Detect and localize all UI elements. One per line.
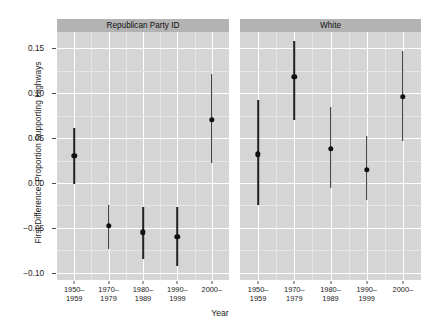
x-tick-mark (177, 281, 178, 284)
gridline-horizontal-minor (240, 71, 421, 72)
y-tick-mark (52, 183, 56, 184)
gridline-horizontal-minor (240, 250, 421, 251)
x-tick-label: 1980–1989 (133, 285, 154, 304)
x-tick-mark (108, 281, 109, 284)
x-tick-label: 1980–1989 (320, 285, 341, 304)
y-tick-label: 0.10 (6, 89, 44, 98)
panel-strip-left: Republican Party ID (57, 19, 229, 32)
x-tick-mark (366, 281, 367, 284)
gridline-vertical-minor (349, 32, 350, 280)
gridline-vertical-minor (160, 32, 161, 280)
x-tick-mark (74, 281, 75, 284)
gridline-horizontal (240, 93, 421, 94)
panel-title-right: White (240, 19, 421, 32)
x-tick-mark (402, 281, 403, 284)
data-point (292, 74, 297, 79)
y-tick-label: 0.05 (6, 134, 44, 143)
x-tick-mark (258, 281, 259, 284)
data-point (175, 234, 180, 239)
x-tick-label: 1970–1979 (284, 285, 305, 304)
gridline-vertical-minor (91, 32, 92, 280)
panel-white: White (240, 19, 421, 280)
gridline-horizontal (240, 228, 421, 229)
data-point (255, 151, 260, 156)
y-tick-label: −0.10 (6, 268, 44, 277)
y-tick-mark (52, 93, 56, 94)
gridline-horizontal (57, 273, 229, 274)
y-tick-label: −0.05 (6, 223, 44, 232)
x-axis-ticks-right: 1950–19591970–19791980–19891990–19992000… (240, 281, 421, 311)
data-point (400, 94, 405, 99)
gridline-horizontal (57, 93, 229, 94)
x-tick-label: 1950–1959 (248, 285, 269, 304)
gridline-vertical-minor (126, 32, 127, 280)
y-tick-mark (52, 228, 56, 229)
x-tick-label: 1990–1999 (167, 285, 188, 304)
data-point (328, 146, 333, 151)
gridline-horizontal-minor (57, 116, 229, 117)
gridline-vertical-minor (195, 32, 196, 280)
x-axis-ticks-left: 1950–19591970–19791980–19891990–19992000… (57, 281, 229, 311)
data-point (140, 230, 145, 235)
y-tick-mark (52, 138, 56, 139)
panel-title-left: Republican Party ID (57, 19, 229, 32)
x-tick-mark (143, 281, 144, 284)
gridline-horizontal (240, 273, 421, 274)
x-axis-title: Year (0, 308, 440, 318)
gridline-horizontal (57, 183, 229, 184)
x-tick-label: 1990–1999 (356, 285, 377, 304)
gridline-horizontal-minor (57, 161, 229, 162)
gridline-vertical-minor (276, 32, 277, 280)
panel-republican-party-id: Republican Party ID (57, 19, 229, 280)
data-point (209, 117, 214, 122)
x-tick-mark (294, 281, 295, 284)
x-tick-label: 2000– (202, 285, 223, 294)
y-axis-ticks: 0.150.100.050.00−0.05−0.10 (6, 0, 44, 327)
data-point (364, 167, 369, 172)
gridline-horizontal-minor (57, 71, 229, 72)
x-tick-label: 1970–1979 (98, 285, 119, 304)
chart-root: First Difference, Proportion Supporting … (0, 0, 440, 327)
y-tick-mark (52, 48, 56, 49)
panel-plot-area-left (57, 32, 229, 280)
y-tick-label: 0.00 (6, 178, 44, 187)
gridline-vertical-minor (312, 32, 313, 280)
panel-strip-right: White (240, 19, 421, 32)
data-point (71, 153, 76, 158)
gridline-horizontal-minor (240, 205, 421, 206)
gridline-horizontal (240, 48, 421, 49)
gridline-horizontal (57, 138, 229, 139)
gridline-horizontal (57, 48, 229, 49)
panel-plot-area-right (240, 32, 421, 280)
x-tick-mark (211, 281, 212, 284)
y-tick-label: 0.15 (6, 44, 44, 53)
x-tick-label: 1950–1959 (64, 285, 85, 304)
gridline-vertical-minor (385, 32, 386, 280)
x-tick-label: 2000– (393, 285, 414, 294)
x-tick-mark (330, 281, 331, 284)
y-tick-mark (52, 273, 56, 274)
confidence-interval-bar (294, 41, 296, 120)
